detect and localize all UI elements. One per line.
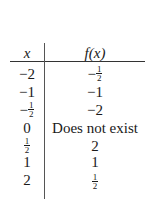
value: 1	[27, 84, 35, 100]
row-5-x: 1	[10, 152, 44, 168]
row-5-fx: 1	[45, 152, 145, 168]
value: Does not exist	[52, 120, 138, 136]
denominator: 2	[92, 182, 99, 190]
value: 1	[23, 154, 31, 170]
value: 2	[95, 102, 103, 118]
denominator: 2	[28, 110, 35, 118]
header-x: x	[10, 45, 44, 61]
row-4-x: 12	[10, 136, 44, 152]
fraction: 12	[96, 65, 103, 82]
fraction: 12	[28, 101, 35, 118]
row-0-x: −2	[10, 64, 44, 80]
header-fx: f(x)	[45, 45, 145, 61]
row-3-x: 0	[10, 118, 44, 134]
row-2-fx: −2	[45, 100, 145, 116]
row-6-fx: 12	[45, 172, 145, 188]
value: 2	[23, 172, 31, 188]
sign: −	[20, 102, 28, 118]
row-2-x: −12	[10, 100, 44, 116]
header-x-label: x	[24, 45, 31, 61]
fraction: 12	[92, 173, 99, 190]
row-6-x: 2	[10, 170, 44, 186]
denominator: 2	[96, 74, 103, 82]
row-4-fx: 2	[45, 136, 145, 152]
header-divider	[10, 61, 145, 62]
row-3-fx: Does not exist	[45, 118, 145, 134]
header-fx-label: f(x)	[85, 45, 106, 61]
sign: −	[88, 66, 96, 82]
row-1-fx: −1	[45, 82, 145, 98]
function-value-table: x f(x) −2 −12 −1 −1 −12 −2 0 Does not ex…	[0, 0, 150, 208]
row-0-fx: −12	[45, 64, 145, 80]
value: 1	[95, 84, 103, 100]
value: 0	[23, 120, 31, 136]
value: 1	[91, 154, 99, 170]
value: 2	[27, 66, 35, 82]
row-1-x: −1	[10, 82, 44, 98]
